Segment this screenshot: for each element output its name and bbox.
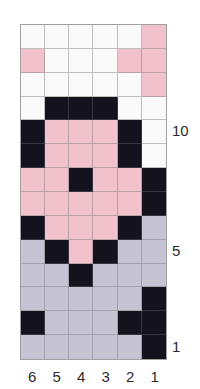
chart-cell bbox=[21, 311, 45, 335]
chart-cell bbox=[69, 264, 93, 288]
column-label-3: 3 bbox=[94, 369, 119, 384]
column-label-6: 6 bbox=[20, 369, 45, 384]
chart-cell bbox=[118, 25, 142, 49]
chart-cell bbox=[45, 311, 69, 335]
column-label-5: 5 bbox=[45, 369, 70, 384]
chart-cell bbox=[45, 144, 69, 168]
chart-cell bbox=[118, 264, 142, 288]
chart-cell bbox=[21, 216, 45, 240]
chart-cell bbox=[93, 97, 117, 121]
chart-cell bbox=[69, 311, 93, 335]
chart-cell bbox=[93, 264, 117, 288]
chart-cell bbox=[93, 240, 117, 264]
chart-cell bbox=[93, 335, 117, 359]
chart-cell bbox=[142, 168, 166, 192]
chart-cell bbox=[118, 240, 142, 264]
chart-cell bbox=[69, 240, 93, 264]
chart-cell bbox=[118, 168, 142, 192]
chart-cell bbox=[142, 240, 166, 264]
chart-cell bbox=[21, 97, 45, 121]
chart-cell bbox=[118, 287, 142, 311]
chart-cell bbox=[21, 49, 45, 73]
chart-cell bbox=[21, 335, 45, 359]
chart-cell bbox=[93, 120, 117, 144]
chart-cell bbox=[45, 264, 69, 288]
chart-cell bbox=[142, 216, 166, 240]
chart-cell bbox=[118, 335, 142, 359]
chart-cell bbox=[118, 311, 142, 335]
chart-cell bbox=[93, 144, 117, 168]
chart-cell bbox=[45, 120, 69, 144]
chart-cell bbox=[69, 49, 93, 73]
chart-cell bbox=[69, 144, 93, 168]
chart-cell bbox=[142, 192, 166, 216]
chart-cell bbox=[93, 73, 117, 97]
chart-cell bbox=[45, 73, 69, 97]
chart-cell bbox=[118, 216, 142, 240]
chart-cell bbox=[45, 25, 69, 49]
chart-cell bbox=[93, 311, 117, 335]
chart-cell bbox=[118, 49, 142, 73]
row-label-1: 1 bbox=[172, 339, 200, 354]
chart-cell bbox=[45, 216, 69, 240]
chart-cell bbox=[69, 287, 93, 311]
chart-cell bbox=[21, 144, 45, 168]
chart-cell bbox=[21, 240, 45, 264]
chart-cell bbox=[69, 120, 93, 144]
chart-cell bbox=[93, 287, 117, 311]
column-label-4: 4 bbox=[69, 369, 94, 384]
row-label-10: 10 bbox=[172, 123, 200, 138]
chart-cell bbox=[118, 97, 142, 121]
chart-cell bbox=[118, 192, 142, 216]
chart-cell bbox=[45, 335, 69, 359]
chart-cell bbox=[142, 144, 166, 168]
column-label-2: 2 bbox=[118, 369, 143, 384]
chart-cell bbox=[69, 192, 93, 216]
chart-cell bbox=[118, 144, 142, 168]
chart-cell bbox=[118, 120, 142, 144]
chart-cell bbox=[69, 216, 93, 240]
chart-cell bbox=[142, 25, 166, 49]
chart-cell bbox=[21, 25, 45, 49]
chart-grid bbox=[20, 24, 167, 360]
chart-cell bbox=[142, 73, 166, 97]
chart-cell bbox=[45, 49, 69, 73]
chart-cell bbox=[45, 287, 69, 311]
chart-cell bbox=[21, 287, 45, 311]
column-label-1: 1 bbox=[143, 369, 168, 384]
chart-cell bbox=[93, 168, 117, 192]
chart-cell bbox=[45, 192, 69, 216]
chart-cell bbox=[21, 73, 45, 97]
chart-cell bbox=[69, 25, 93, 49]
chart-cell bbox=[93, 192, 117, 216]
chart-cell bbox=[142, 335, 166, 359]
chart-cell bbox=[21, 264, 45, 288]
chart-cell bbox=[21, 120, 45, 144]
chart-cell bbox=[21, 168, 45, 192]
chart-cell bbox=[45, 97, 69, 121]
chart-cell bbox=[142, 287, 166, 311]
chart-cell bbox=[93, 25, 117, 49]
chart-cell bbox=[45, 240, 69, 264]
chart-cell bbox=[45, 168, 69, 192]
chart-cell bbox=[118, 73, 142, 97]
chart-cell bbox=[21, 192, 45, 216]
chart-cell bbox=[142, 311, 166, 335]
chart-cell bbox=[69, 335, 93, 359]
column-label-row: 654321 bbox=[20, 366, 167, 386]
chart-cell bbox=[93, 49, 117, 73]
chart-cell bbox=[142, 264, 166, 288]
chart-cell bbox=[69, 168, 93, 192]
row-label-5: 5 bbox=[172, 243, 200, 258]
chart-cell bbox=[142, 49, 166, 73]
chart-cell bbox=[142, 120, 166, 144]
chart-cell bbox=[69, 97, 93, 121]
chart-cell bbox=[93, 216, 117, 240]
stitch-chart: 10 5 1 654321 bbox=[0, 0, 200, 389]
chart-cell bbox=[69, 73, 93, 97]
chart-cell bbox=[142, 97, 166, 121]
